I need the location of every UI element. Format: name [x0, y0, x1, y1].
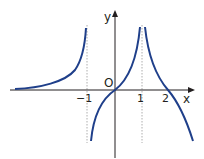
y-axis-arrow-icon — [112, 10, 118, 17]
function-graph: y x O −1 1 2 — [0, 0, 204, 159]
curve-branch-left — [15, 28, 86, 89]
x-axis-label: x — [183, 92, 190, 106]
tick-label-2: 2 — [162, 92, 169, 105]
curve-branch-right — [145, 27, 193, 141]
y-axis-label: y — [104, 10, 111, 24]
tick-label-neg1: −1 — [76, 92, 92, 105]
origin-label: O — [104, 76, 113, 90]
tick-label-1: 1 — [137, 92, 144, 105]
